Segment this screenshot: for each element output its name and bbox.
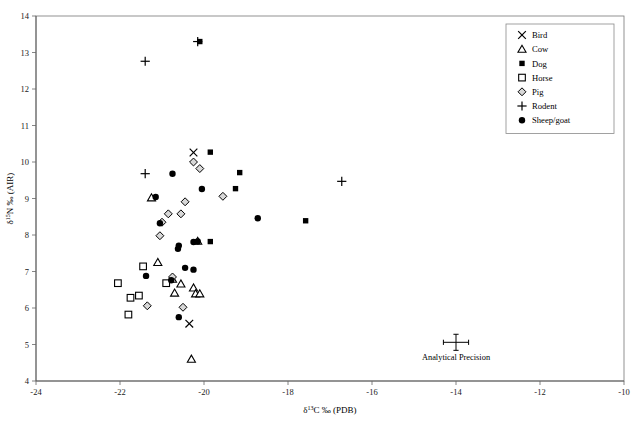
- legend-item-pig[interactable]: Pig: [518, 87, 544, 97]
- data-point: [164, 210, 172, 218]
- series-bird: [185, 149, 197, 328]
- legend-label: Bird: [532, 30, 548, 40]
- y-tick-label: 14: [21, 11, 30, 21]
- data-point: [153, 194, 159, 200]
- x-tick-label: -22: [114, 387, 125, 397]
- data-point: [143, 273, 149, 279]
- data-point: [169, 170, 175, 176]
- data-point: [190, 239, 196, 245]
- data-point: [127, 294, 134, 301]
- y-tick-label: 5: [25, 340, 29, 350]
- data-point: [208, 239, 213, 244]
- y-tick-label: 6: [25, 303, 29, 313]
- legend-label: Rodent: [532, 101, 557, 111]
- plot-canvas: 4567891011121314-24-22-20-18-16-14-12-10…: [0, 0, 638, 424]
- annotation-analytical-precision: Analytical Precision: [422, 334, 491, 362]
- x-axis-title: δ13C ‰ (PDB): [303, 405, 356, 415]
- data-point: [176, 314, 182, 320]
- data-point: [193, 37, 202, 46]
- series-sheep-goat: [143, 170, 261, 320]
- y-tick-label: 10: [21, 157, 30, 167]
- legend-label: Horse: [532, 73, 553, 83]
- data-point: [233, 186, 238, 191]
- data-point: [143, 302, 151, 310]
- data-point: [303, 218, 308, 223]
- data-point: [199, 186, 205, 192]
- scatter-plot-figure: 4567891011121314-24-22-20-18-16-14-12-10…: [0, 0, 638, 424]
- x-tick-label: -18: [282, 387, 293, 397]
- x-tick-label: -14: [450, 387, 462, 397]
- data-point: [190, 266, 196, 272]
- data-point: [237, 170, 242, 175]
- data-point: [208, 149, 213, 154]
- x-tick-label: -16: [366, 387, 377, 397]
- legend-label: Pig: [532, 87, 544, 97]
- data-point: [168, 277, 174, 283]
- data-point: [154, 258, 162, 265]
- data-point: [177, 280, 185, 287]
- y-tick-label: 9: [25, 194, 29, 204]
- data-point: [175, 246, 181, 252]
- y-tick-label: 8: [25, 230, 29, 240]
- y-tick-label: 11: [21, 121, 29, 131]
- data-point: [141, 57, 150, 66]
- data-point: [189, 284, 197, 291]
- legend-marker-filled-square: [519, 61, 524, 66]
- data-point: [141, 169, 150, 178]
- data-point: [157, 220, 163, 226]
- series-rodent: [141, 37, 347, 186]
- analytical-precision-label: Analytical Precision: [422, 353, 491, 362]
- legend-item-horse[interactable]: Horse: [519, 73, 553, 83]
- legend-marker-open-square: [519, 74, 526, 81]
- legend-label: Cow: [532, 44, 549, 54]
- series-pig: [143, 158, 227, 311]
- y-tick-label: 7: [25, 267, 29, 277]
- data-point: [255, 215, 261, 221]
- data-point: [177, 210, 185, 218]
- x-axis-title-text: δ13C ‰ (PDB): [303, 405, 356, 415]
- x-tick-label: -24: [30, 387, 42, 397]
- y-tick-label: 12: [21, 84, 30, 94]
- y-tick-label: 4: [25, 376, 30, 386]
- data-point: [190, 149, 198, 157]
- data-point: [190, 158, 198, 166]
- data-point: [219, 192, 227, 200]
- series-dog: [197, 39, 308, 244]
- data-point: [196, 165, 204, 173]
- y-axis-title-text: δ15N ‰ (AIR): [5, 173, 15, 225]
- data-point: [140, 263, 147, 270]
- data-point: [156, 232, 164, 240]
- x-tick-label: -10: [618, 387, 629, 397]
- x-tick-label: -12: [534, 387, 545, 397]
- data-point: [337, 177, 346, 186]
- data-point: [136, 292, 143, 299]
- data-point: [185, 320, 193, 328]
- data-point: [115, 280, 122, 287]
- legend-label: Sheep/goat: [532, 115, 571, 125]
- data-point: [125, 311, 132, 318]
- data-point: [179, 303, 187, 311]
- y-axis-title: δ15N ‰ (AIR): [5, 173, 15, 225]
- data-point: [171, 289, 179, 296]
- series-horse: [115, 263, 170, 318]
- x-tick-label: -20: [198, 387, 209, 397]
- legend-marker-filled-circle: [519, 117, 525, 123]
- legend: BirdCowDogHorsePigRodentSheep/goat: [506, 24, 614, 133]
- data-point: [187, 355, 195, 362]
- legend-label: Dog: [532, 59, 548, 69]
- data-point: [182, 265, 188, 271]
- data-point: [181, 198, 189, 206]
- y-tick-label: 13: [21, 48, 30, 58]
